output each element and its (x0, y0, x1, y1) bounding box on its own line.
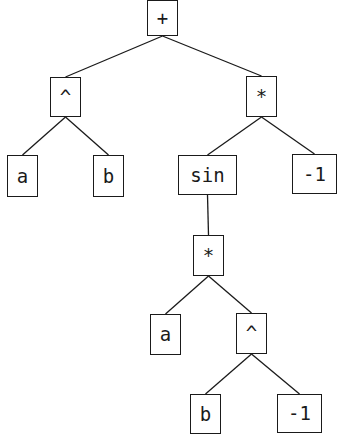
node-inner-leaf-b: b (190, 394, 221, 434)
node-inner-leaf-a: a (150, 314, 181, 355)
node-inner-multiply: * (193, 235, 224, 276)
node-label: a (17, 167, 28, 186)
node-multiply: * (246, 76, 277, 117)
node-label: a (160, 325, 171, 344)
expression-tree-diagram: + ^ * a b sin -1 * a ^ b -1 (0, 0, 349, 444)
tree-edges (0, 0, 349, 444)
node-label: -1 (288, 404, 311, 423)
node-label: b (103, 167, 114, 186)
node-leaf-b: b (93, 155, 124, 197)
node-label: sin (190, 166, 224, 185)
node-inner-leaf-minus-one: -1 (277, 394, 322, 433)
tree-edge (206, 354, 252, 394)
tree-edge (208, 195, 209, 235)
tree-edge (66, 36, 163, 77)
node-label: * (203, 246, 214, 265)
node-label: ^ (246, 324, 257, 343)
tree-edge (163, 36, 262, 76)
tree-edge (23, 117, 66, 155)
node-label: * (256, 87, 267, 106)
node-inner-power: ^ (236, 313, 267, 354)
node-label: ^ (60, 88, 71, 107)
node-label: -1 (303, 165, 326, 184)
tree-edge (66, 117, 109, 155)
tree-edge (252, 354, 300, 394)
tree-edge (262, 117, 315, 154)
tree-edge (208, 117, 262, 155)
node-leaf-a: a (7, 155, 38, 197)
tree-edge (166, 276, 209, 314)
node-power: ^ (50, 77, 81, 117)
node-plus-root: + (147, 0, 178, 36)
node-label: + (157, 9, 168, 28)
node-sin: sin (178, 155, 237, 195)
node-label: b (200, 405, 211, 424)
tree-edge (209, 276, 252, 313)
node-leaf-minus-one: -1 (292, 154, 337, 194)
